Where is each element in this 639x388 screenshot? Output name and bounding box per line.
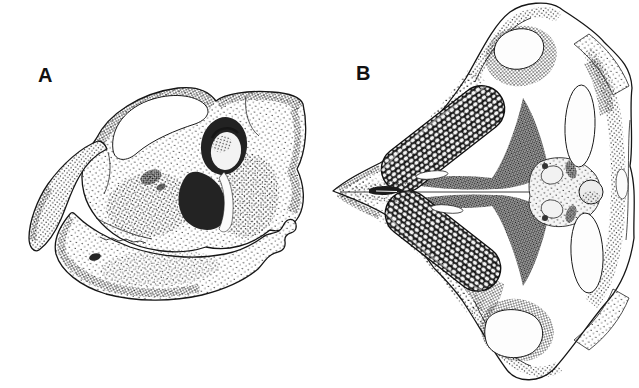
panel-b-label: B [356,62,370,84]
panel-a: A [29,64,306,300]
two-panel-skull-figure: A [0,0,639,388]
skull-ventral-view [333,3,634,380]
lower-temporal-fenestra [485,310,543,358]
figure-canvas: A [0,0,639,388]
skull-lateral-view [29,88,306,301]
panel-b: B [333,3,634,380]
panel-a-label: A [38,64,52,86]
